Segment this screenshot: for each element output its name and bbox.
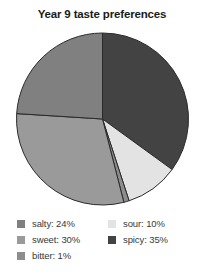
chart-page: Year 9 taste preferences salty: 24%sweet…	[0, 0, 204, 274]
legend-swatch-sweet	[17, 236, 25, 244]
legend-label-salty: salty: 24%	[32, 219, 75, 229]
legend-column-left: salty: 24%sweet: 30%bitter: 1%	[17, 216, 80, 264]
legend-swatch-sour	[108, 220, 116, 228]
legend-swatch-bitter	[17, 252, 25, 260]
pie-chart-svg	[16, 32, 190, 208]
pie-slice-group	[17, 33, 189, 205]
legend-swatch-salty	[17, 220, 25, 228]
pie-chart	[16, 32, 190, 208]
pie-slice-salty[interactable]	[17, 33, 103, 119]
legend-label-spicy: spicy: 35%	[123, 235, 168, 245]
legend-label-sour: sour: 10%	[123, 219, 165, 229]
legend-label-sweet: sweet: 30%	[32, 235, 80, 245]
legend-item-spicy[interactable]: spicy: 35%	[108, 232, 168, 248]
legend-item-sweet[interactable]: sweet: 30%	[17, 232, 80, 248]
legend-swatch-spicy	[108, 236, 116, 244]
legend-item-bitter[interactable]: bitter: 1%	[17, 248, 80, 264]
legend-item-salty[interactable]: salty: 24%	[17, 216, 80, 232]
chart-legend: salty: 24%sweet: 30%bitter: 1% sour: 10%…	[0, 216, 204, 272]
legend-item-sour[interactable]: sour: 10%	[108, 216, 168, 232]
page-title: Year 9 taste preferences	[0, 8, 204, 20]
legend-column-right: sour: 10%spicy: 35%	[108, 216, 168, 248]
legend-label-bitter: bitter: 1%	[32, 251, 71, 261]
